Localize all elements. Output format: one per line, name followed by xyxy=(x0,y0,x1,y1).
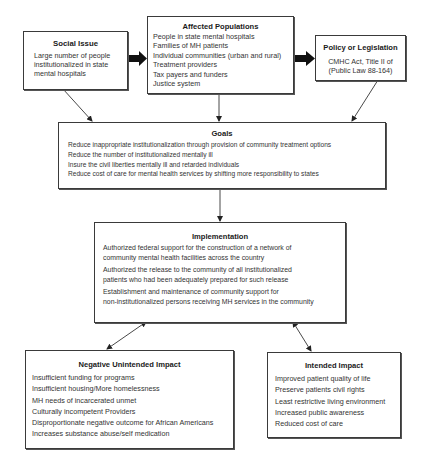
intended-impact-item: Preserve patients civil rights xyxy=(275,384,400,395)
implementation-title: Implementation xyxy=(95,232,345,241)
social-issue-line: institutionalized in state xyxy=(34,60,127,69)
implementation-item-line: Authorized federal support for the const… xyxy=(103,243,345,253)
affected-populations-title: Affected Populations xyxy=(148,22,293,31)
social-issue-line: Large number of people xyxy=(34,51,127,60)
policy-line: CMHC Act, Title II of xyxy=(316,57,405,66)
negative-impact-title: Negative Unintended Impact xyxy=(26,360,233,369)
goal-item: Insure the civil liberties mentally ill … xyxy=(68,160,385,170)
negative-impact-item: Insufficient housing/More homelessness xyxy=(32,383,233,394)
goals-title: Goals xyxy=(59,129,385,138)
negative-impact-item: Culturally incompetent Providers xyxy=(32,406,233,417)
intended-impact-item: Least restrictive living environment xyxy=(275,396,400,407)
social-issue-box: Social Issue Large number of people inst… xyxy=(23,31,128,90)
implementation-box: Implementation Authorized federal suppor… xyxy=(94,222,346,323)
implementation-item-line: Establishment and maintenance of communi… xyxy=(103,287,345,297)
implementation-item-line: community mental health facilities acros… xyxy=(103,253,345,263)
intended-impact-title: Intended Impact xyxy=(268,361,400,370)
negative-impact-item: Increases substance abuse/self medicatio… xyxy=(32,428,233,439)
policy-box: Policy or Legislation CMHC Act, Title II… xyxy=(315,35,406,81)
intended-impact-item: Increased public awareness xyxy=(275,407,400,418)
implementation-item-line: patients who had been adequately prepare… xyxy=(103,275,345,285)
intended-impact-item: Improved patient quality of life xyxy=(275,373,400,384)
implementation-item: Establishment and maintenance of communi… xyxy=(103,287,345,307)
affected-populations-box: Affected Populations People in state men… xyxy=(147,16,294,94)
thick-arrow-affected-to-policy xyxy=(294,51,315,66)
goals-box: Goals Reduce inappropriate institutional… xyxy=(58,122,386,189)
affected-population-item: Families of MH patients xyxy=(153,41,293,50)
negative-impact-item: Disproportionate negative outcome for Af… xyxy=(32,417,233,428)
implementation-item-line: non-institutionalized persons receiving … xyxy=(103,297,345,307)
implementation-item-line: Authorized the release to the community … xyxy=(103,265,345,275)
social-issue-title: Social Issue xyxy=(24,39,127,48)
policy-title: Policy or Legislation xyxy=(316,43,405,52)
affected-population-item: People in state mental hospitals xyxy=(153,32,293,41)
negative-impact-item: Insufficient funding for programs xyxy=(32,372,233,383)
affected-population-item: Individual communities (urban and rural) xyxy=(153,51,293,60)
goal-item: Reduce the number of institutionalized m… xyxy=(68,150,385,160)
negative-impact-box: Negative Unintended Impact Insufficient … xyxy=(25,350,234,449)
negative-impact-item: MH needs of incarcerated unmet xyxy=(32,395,233,406)
social-issue-line: mental hospitals xyxy=(34,69,127,78)
thick-arrow-social-to-affected xyxy=(128,51,147,66)
implementation-item: Authorized federal support for the const… xyxy=(103,243,345,263)
affected-population-item: Justice system xyxy=(153,79,293,88)
implementation-item: Authorized the release to the community … xyxy=(103,265,345,285)
goal-item: Reduce cost of care for mental health se… xyxy=(68,169,385,179)
intended-impact-item: Reduced cost of care xyxy=(275,418,400,429)
affected-population-item: Treatment providers xyxy=(153,60,293,69)
affected-population-item: Tax payers and funders xyxy=(153,70,293,79)
policy-line: (Public Law 88-164) xyxy=(316,66,405,75)
goal-item: Reduce inappropriate institutionalizatio… xyxy=(68,140,385,150)
intended-impact-box: Intended Impact Improved patient quality… xyxy=(267,352,401,438)
